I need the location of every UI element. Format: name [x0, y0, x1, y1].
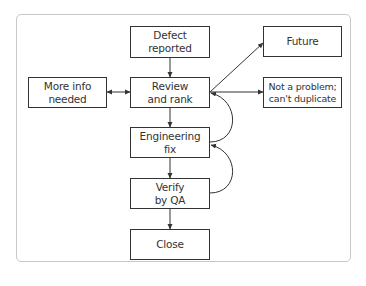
node-defect-reported: Defect reported: [130, 26, 210, 58]
node-close: Close: [130, 229, 210, 260]
node-engineering-fix: Engineering fix: [130, 127, 210, 158]
edge-engfix-review-curve: [210, 93, 233, 142]
node-verify-by-qa: Verify by QA: [130, 178, 210, 209]
node-future: Future: [263, 26, 342, 57]
edge-verify-engfix-curve: [210, 145, 233, 193]
edge-review-future: [210, 43, 263, 92]
node-not-a-problem: Not a problem; can't duplicate: [263, 77, 342, 108]
node-review-and-rank: Review and rank: [130, 77, 210, 108]
node-more-info-needed: More info needed: [28, 77, 107, 108]
